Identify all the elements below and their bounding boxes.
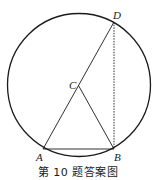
figure-caption: 第 10 题答案图: [0, 163, 156, 179]
segment-cb: [79, 86, 115, 150]
label-point-a: A: [35, 151, 43, 163]
label-point-b: B: [114, 151, 121, 163]
label-point-c: C: [69, 79, 77, 91]
geometry-figure: D C A B: [0, 0, 156, 180]
label-point-d: D: [112, 9, 121, 21]
